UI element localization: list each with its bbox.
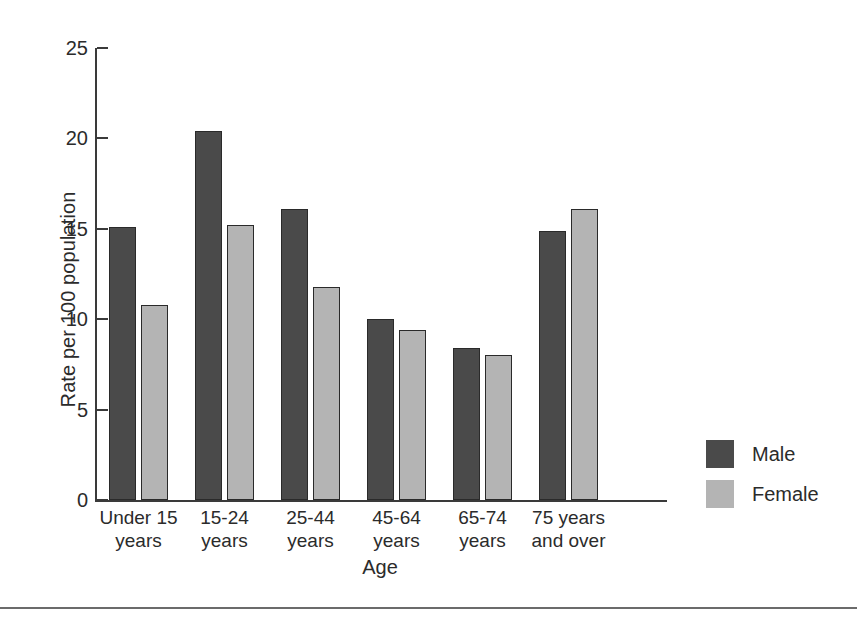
- legend-swatch-female: [706, 480, 734, 508]
- x-tick-label-5: 75 yearsand over: [509, 506, 629, 552]
- plot-area: [97, 48, 667, 500]
- chart-legend: MaleFemale: [706, 434, 819, 514]
- bottom-divider: [0, 607, 857, 609]
- legend-item-female[interactable]: Female: [706, 474, 819, 514]
- bar-male-5: [539, 231, 566, 500]
- y-tick-label: 10: [48, 309, 88, 329]
- bar-male-2: [281, 209, 308, 500]
- x-tick-label-line: 75 years: [509, 506, 629, 529]
- bar-female-4: [485, 355, 512, 500]
- x-axis-line: [95, 500, 667, 502]
- y-tick-label: 20: [48, 128, 88, 148]
- legend-item-male[interactable]: Male: [706, 434, 819, 474]
- bar-female-0: [141, 305, 168, 500]
- legend-label: Male: [752, 443, 795, 466]
- bar-female-2: [313, 287, 340, 500]
- bar-female-5: [571, 209, 598, 500]
- bar-male-3: [367, 319, 394, 500]
- bar-male-0: [109, 227, 136, 500]
- x-axis-title: Age: [0, 556, 760, 579]
- bar-female-1: [227, 225, 254, 500]
- bar-female-3: [399, 330, 426, 500]
- x-tick-label-line: and over: [509, 529, 629, 552]
- legend-swatch-male: [706, 440, 734, 468]
- y-tick-label: 5: [48, 400, 88, 420]
- bar-male-1: [195, 131, 222, 500]
- bar-chart-figure: Rate per 100 population 0510152025 Under…: [0, 0, 857, 621]
- y-tick-label: 15: [48, 219, 88, 239]
- legend-label: Female: [752, 483, 819, 506]
- bar-male-4: [453, 348, 480, 500]
- y-tick-label: 25: [48, 38, 88, 58]
